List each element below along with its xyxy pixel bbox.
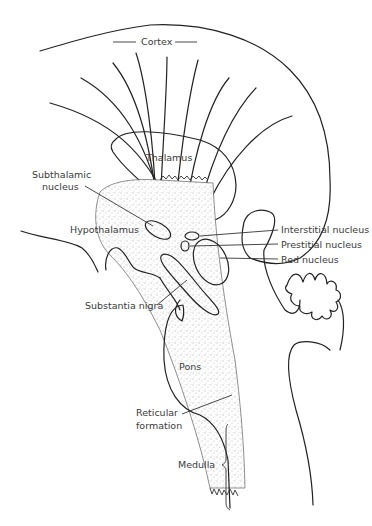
label-reticular-2: formation [136, 420, 182, 431]
label-medulla: Medulla [178, 459, 215, 470]
label-prestitial: Prestitial nucleus [281, 239, 362, 250]
label-subthalamic-2: nucleus [42, 181, 79, 192]
label-cortex: Cortex [141, 36, 173, 47]
label-pons: Pons [179, 361, 201, 372]
brainstem-diagram: Cortex Thalamus Subthalamic nucleus Hypo… [0, 0, 372, 526]
label-subthalamic-1: Subthalamic [32, 169, 91, 180]
label-thalamus: Thalamus [145, 152, 192, 163]
label-substantia-nigra: Substantia nigra [85, 300, 163, 311]
label-hypothalamus: Hypothalamus [70, 224, 139, 235]
label-reticular-1: Reticular [136, 407, 178, 418]
label-interstitial: Interstitial nucleus [281, 224, 369, 235]
label-red-nucleus: Red nucleus [281, 254, 339, 265]
